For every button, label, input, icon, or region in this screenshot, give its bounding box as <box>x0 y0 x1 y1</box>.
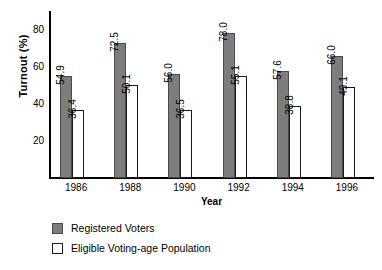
bar-registered-voters: 57.6 <box>277 71 289 178</box>
bar-value-label: 72.5 <box>110 33 120 52</box>
bar-value-label: 78.0 <box>219 23 229 42</box>
bar-pair: 78.055.1 <box>212 11 266 178</box>
bar-group: 72.550.1 <box>103 11 157 178</box>
chart-legend: Registered VotersEligible Voting-age Pop… <box>52 218 211 258</box>
bar-eligible-population: 36.4 <box>72 110 84 178</box>
plot-area: 20406080 54.936.472.550.156.036.578.055.… <box>49 11 374 178</box>
bar-eligible-population: 50.1 <box>126 85 138 178</box>
legend-item[interactable]: Registered Voters <box>52 218 211 238</box>
y-tick-label: 20 <box>33 136 44 146</box>
y-tick-label: 40 <box>33 99 44 109</box>
bar-group: 78.055.1 <box>212 11 266 178</box>
x-tick-label: 1996 <box>320 182 374 196</box>
bar-pair: 66.049.1 <box>320 11 374 178</box>
bar-group: 57.638.8 <box>266 11 320 178</box>
bar-value-label: 49.1 <box>339 76 349 95</box>
x-tick-label: 1992 <box>212 182 266 196</box>
bar-value-label: 50.1 <box>122 74 132 93</box>
y-tick-label: 80 <box>33 25 44 35</box>
bar-group: 66.049.1 <box>320 11 374 178</box>
bar-value-label: 66.0 <box>327 45 337 64</box>
y-axis-title: Turnout (%) <box>17 21 29 111</box>
x-tick-label: 1988 <box>103 182 157 196</box>
legend-label: Eligible Voting-age Population <box>71 243 211 254</box>
x-tick-label: 1994 <box>266 182 320 196</box>
bar-registered-voters: 66.0 <box>331 56 343 178</box>
bar-registered-voters: 54.9 <box>60 76 72 178</box>
bar-value-label: 36.5 <box>176 100 186 119</box>
bar-registered-voters: 78.0 <box>223 33 235 178</box>
bar-pair: 54.936.4 <box>49 11 103 178</box>
x-tick-label: 1986 <box>49 182 103 196</box>
bar-group: 54.936.4 <box>49 11 103 178</box>
bar-groups: 54.936.472.550.156.036.578.055.157.638.8… <box>49 11 374 178</box>
x-tick-label: 1990 <box>157 182 211 196</box>
x-axis-ticks: 198619881990199219941996 <box>49 182 374 196</box>
bar-value-label: 56.0 <box>164 63 174 82</box>
chart-figure: Turnout (%) 20406080 54.936.472.550.156.… <box>0 0 382 270</box>
bar-pair: 72.550.1 <box>103 11 157 178</box>
bar-pair: 57.638.8 <box>266 11 320 178</box>
legend-label: Registered Voters <box>71 223 154 234</box>
bar-value-label: 57.6 <box>273 60 283 79</box>
bar-eligible-population: 36.5 <box>180 110 192 178</box>
bar-eligible-population: 55.1 <box>235 76 247 178</box>
bar-pair: 56.036.5 <box>157 11 211 178</box>
bar-registered-voters: 56.0 <box>168 74 180 178</box>
legend-swatch-registered-voters <box>52 223 63 234</box>
legend-swatch-eligible-population <box>52 243 63 254</box>
y-tick-label: 60 <box>33 62 44 72</box>
bar-value-label: 55.1 <box>231 65 241 84</box>
bar-value-label: 54.9 <box>56 65 66 84</box>
bar-value-label: 36.4 <box>68 100 78 119</box>
bar-eligible-population: 49.1 <box>343 87 355 178</box>
legend-item[interactable]: Eligible Voting-age Population <box>52 238 211 258</box>
bar-group: 56.036.5 <box>157 11 211 178</box>
bar-value-label: 38.8 <box>285 95 295 114</box>
bar-eligible-population: 38.8 <box>289 106 301 178</box>
x-axis-title: Year <box>49 196 374 207</box>
bar-registered-voters: 72.5 <box>114 43 126 178</box>
